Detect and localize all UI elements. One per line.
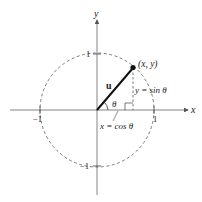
angle-label: θ <box>112 99 117 109</box>
horizontal-label: x = cos θ <box>99 121 134 131</box>
y-axis-label: y <box>93 8 99 19</box>
point-label: (x, y) <box>138 59 158 70</box>
unit-circle-diagram: y x 1 −1 −1 1 (x, y) u θ y = sin θ x = c… <box>0 0 202 202</box>
tick-label-y-pos: 1 <box>86 49 90 59</box>
vertical-label: y = sin θ <box>134 85 167 95</box>
point-xy <box>130 65 135 70</box>
leader-line <box>113 111 118 121</box>
tick-label-x-pos: 1 <box>153 114 157 124</box>
tick-label-x-neg: −1 <box>33 114 42 124</box>
right-angle-mark <box>125 103 133 110</box>
vector-label: u <box>106 80 112 91</box>
angle-arc <box>104 102 108 110</box>
tick-label-y-neg: −1 <box>80 161 89 171</box>
x-axis-label: x <box>190 104 196 115</box>
